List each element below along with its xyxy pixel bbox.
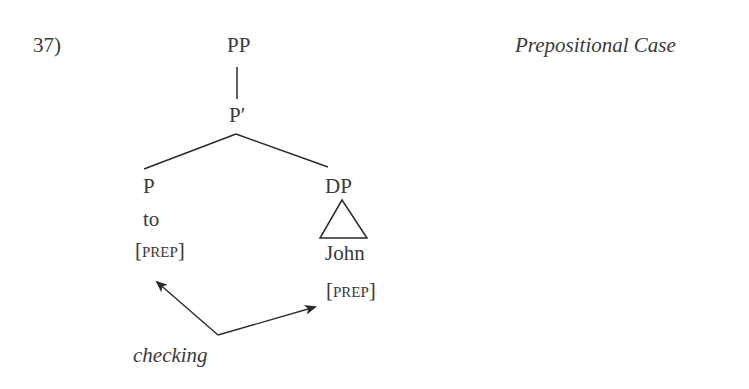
feature-bracket-open: [ [135, 238, 142, 262]
node-p: P [143, 174, 155, 198]
feature-bracket-close: ] [369, 278, 376, 302]
node-pp: PP [227, 33, 250, 57]
node-dp: DP [325, 174, 352, 198]
feature-prep-head: [prep] [135, 238, 185, 262]
checking-arrow-left [157, 282, 218, 335]
feature-prep-complement: [prep] [326, 278, 376, 302]
word-to: to [143, 207, 159, 231]
checking-arrow-right [218, 307, 315, 335]
pbar-to-p-branch [144, 134, 236, 169]
feature-bracket-open: [ [326, 278, 333, 302]
feature-label: prep [142, 238, 178, 262]
feature-label: prep [333, 278, 369, 302]
dp-triangle-icon [320, 200, 367, 238]
pbar-to-dp-branch [236, 134, 328, 167]
node-pbar: P′ [229, 103, 245, 127]
checking-label: checking [133, 343, 208, 367]
feature-bracket-close: ] [178, 238, 185, 262]
word-john: John [325, 241, 365, 265]
tree-lines [0, 0, 749, 389]
